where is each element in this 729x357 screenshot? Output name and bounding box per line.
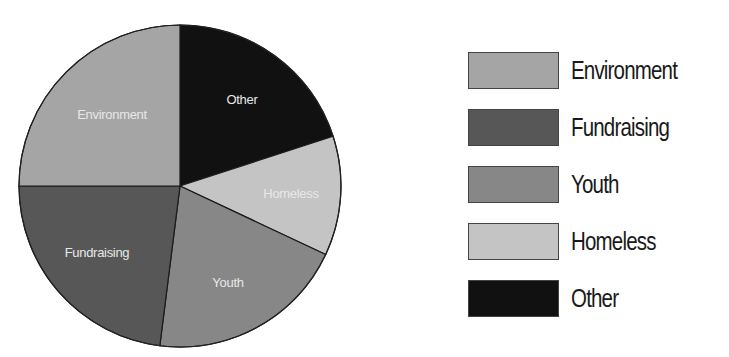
legend-label-homeless: Homeless [571,227,656,256]
legend-item-other: Other [468,280,700,317]
pie-slice-fundraising [19,186,180,346]
legend-item-environment: Environment [468,52,700,89]
legend-swatch-other [468,280,559,317]
pie-slice-environment [19,25,180,186]
legend-label-fundraising: Fundraising [571,113,669,142]
slice-label-fundraising: Fundraising [65,245,130,260]
legend-label-other: Other [571,284,618,313]
slice-label-youth: Youth [212,275,243,290]
legend-swatch-homeless [468,223,559,260]
slice-label-other: Other [226,92,258,107]
legend-item-homeless: Homeless [468,223,700,260]
legend-swatch-environment [468,52,559,89]
chart-legend: Environment Fundraising Youth Homeless O… [468,52,700,337]
legend-label-youth: Youth [571,170,619,199]
legend-swatch-youth [468,166,559,203]
legend-item-fundraising: Fundraising [468,109,700,146]
legend-item-youth: Youth [468,166,700,203]
slice-label-environment: Environment [77,107,147,122]
slice-label-homeless: Homeless [263,186,319,201]
legend-swatch-fundraising [468,109,559,146]
legend-label-environment: Environment [571,56,677,85]
